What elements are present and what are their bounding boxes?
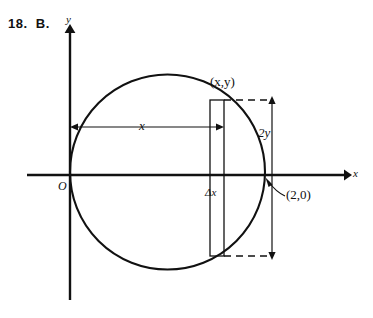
point-xy-label: (x,y): [210, 74, 235, 90]
x-axis: [27, 170, 352, 181]
delta-x-label: Δx: [205, 186, 216, 198]
y-axis-label: y: [66, 13, 71, 25]
x-axis-label: x: [353, 167, 358, 179]
2y-dimension-label: 2y: [258, 125, 270, 141]
2y-dimension-arrow: [268, 96, 275, 260]
circle-strip-diagram: [0, 0, 373, 318]
strip-rectangle: [210, 100, 224, 256]
point-two-zero-label: (2,0): [286, 187, 311, 203]
x-dimension-arrow: [70, 123, 224, 130]
figure-page: 18. B.: [0, 0, 373, 318]
x-dimension-label: x: [139, 118, 145, 134]
point-leader-line: [266, 178, 286, 197]
origin-label: O: [58, 179, 67, 194]
circle-curve: [70, 75, 265, 270]
